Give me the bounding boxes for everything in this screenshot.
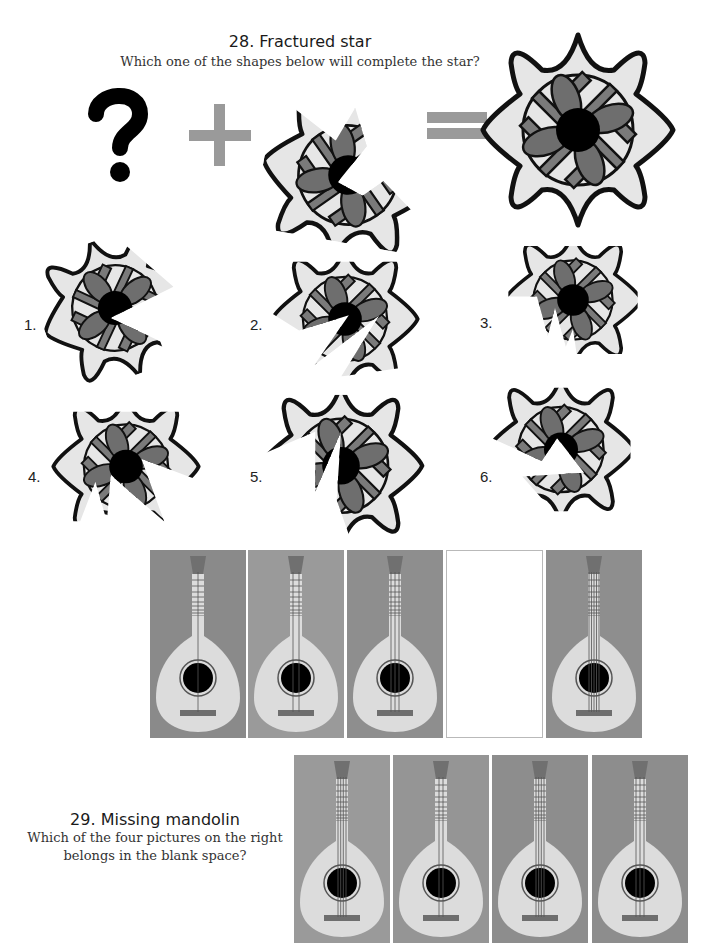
complete-star xyxy=(480,32,676,228)
mandolin-4-strings-icon xyxy=(294,755,390,943)
choice-panel-3[interactable] xyxy=(492,755,588,943)
choice-panel-4[interactable] xyxy=(592,755,688,943)
choice-panel-1[interactable] xyxy=(294,755,390,943)
sequence-blank-panel xyxy=(446,550,543,738)
plus-icon xyxy=(189,104,251,166)
puzzle-28-question: Which one of the shapes below will compl… xyxy=(100,54,500,69)
sequence-panel-2 xyxy=(248,550,344,738)
mandolin-3-strings-icon xyxy=(592,755,688,943)
option-3-shape[interactable] xyxy=(495,228,660,363)
mandolin-1-string-icon xyxy=(150,550,246,738)
option-5-shape[interactable] xyxy=(246,382,436,540)
sequence-panel-3 xyxy=(347,550,443,738)
puzzle-29-title: 29. Missing mandolin xyxy=(30,810,280,829)
mandolin-4-strings-icon xyxy=(492,755,588,943)
puzzle-29-question-line2: belongs in the blank space? xyxy=(20,848,290,863)
option-1-shape[interactable] xyxy=(40,238,190,378)
option-6-shape[interactable] xyxy=(476,372,646,527)
option-1-label: 1. xyxy=(24,316,37,333)
choice-panel-2[interactable] xyxy=(393,755,489,943)
option-2-shape[interactable] xyxy=(255,238,435,373)
sequence-panel-1 xyxy=(150,550,246,738)
mandolin-5-strings-icon xyxy=(546,550,642,738)
mandolin-2-strings-icon xyxy=(393,755,489,943)
equals-icon xyxy=(427,112,487,142)
sequence-panel-5 xyxy=(546,550,642,738)
option-3-label: 3. xyxy=(480,314,493,331)
mandolin-3-strings-icon xyxy=(347,550,443,738)
puzzle-28-title: 28. Fractured star xyxy=(170,32,430,51)
puzzle-29-question-line1: Which of the four pictures on the right xyxy=(20,830,290,845)
given-star-fragment xyxy=(258,80,448,230)
mandolin-2-strings-icon xyxy=(248,550,344,738)
question-mark-icon xyxy=(88,86,148,186)
option-4-shape[interactable] xyxy=(36,388,216,518)
